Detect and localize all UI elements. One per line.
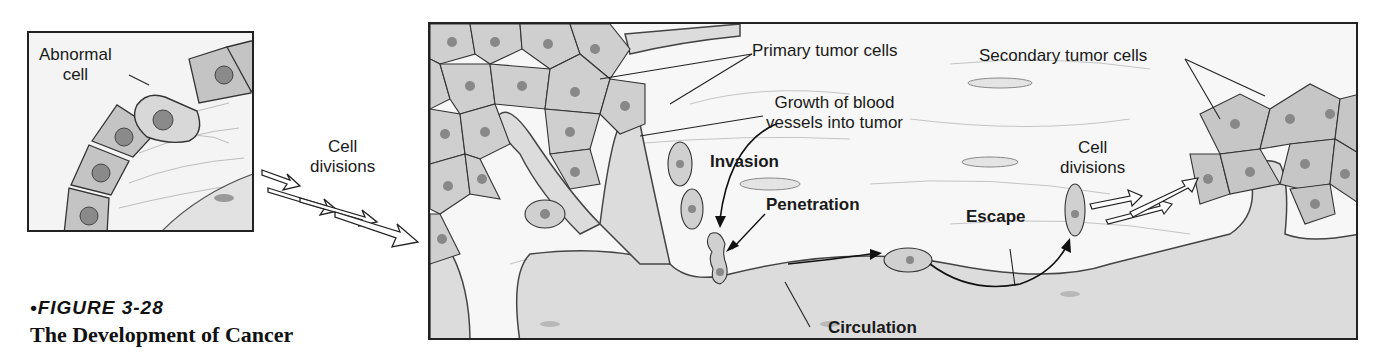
growth-blood-vessels-label: Growth of blood vessels into tumor bbox=[766, 93, 903, 133]
cell-divisions-label-1: Cell divisions bbox=[310, 137, 375, 177]
secondary-tumor-cells-label: Secondary tumor cells bbox=[979, 46, 1147, 66]
circulation-label: Circulation bbox=[828, 318, 917, 338]
penetration-label: Penetration bbox=[766, 195, 860, 215]
tumor-progression-panel: Primary tumor cells Growth of blood vess… bbox=[428, 22, 1358, 340]
figure-title: The Development of Cancer bbox=[30, 322, 293, 348]
primary-tumor-cells-label: Primary tumor cells bbox=[752, 41, 897, 61]
figure-number: •FIGURE 3-28 bbox=[30, 297, 164, 319]
cell-divisions-label-2: Cell divisions bbox=[1060, 138, 1125, 178]
normal-tissue-panel: Abnormal cell bbox=[27, 31, 254, 232]
escape-label: Escape bbox=[966, 207, 1026, 227]
abnormal-cell-label: Abnormal cell bbox=[39, 45, 112, 85]
invasion-label: Invasion bbox=[710, 152, 779, 172]
tumor-illustration bbox=[430, 24, 1358, 340]
